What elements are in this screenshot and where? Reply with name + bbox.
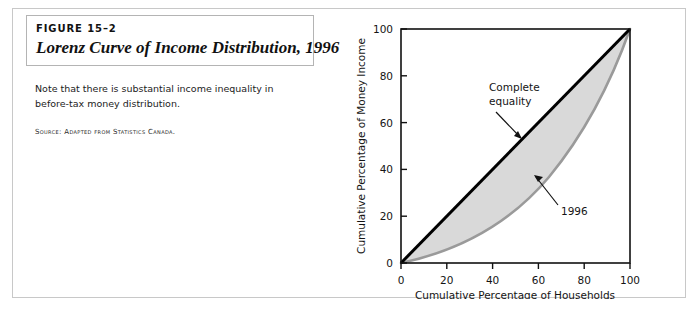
figure-source: Source: Adapted from Statistics Canada. [35, 127, 295, 138]
note-block: Note that there is substantial income in… [26, 81, 295, 138]
figure-number: FIGURE 15–2 [36, 22, 304, 35]
lorenz-curve-chart: 0 20 40 60 80 100 0 20 40 60 80 100 Cumu… [343, 9, 687, 299]
annotation-1996: 1996 [561, 205, 588, 217]
x-tick-label-20: 20 [440, 274, 453, 286]
x-tick-label-0: 0 [398, 274, 405, 286]
figure-frame: FIGURE 15–2 Lorenz Curve of Income Distr… [12, 8, 686, 298]
x-tick-label-60: 60 [532, 274, 545, 286]
figure-note: Note that there is substantial income in… [35, 81, 295, 111]
caption-column: FIGURE 15–2 Lorenz Curve of Income Distr… [26, 15, 316, 285]
y-tick-label-0: 0 [386, 257, 393, 269]
x-tick-label-40: 40 [486, 274, 499, 286]
annotation-complete-equality-line2: equality [489, 95, 531, 107]
y-tick-label-40: 40 [380, 163, 393, 175]
figure-title: Lorenz Curve of Income Distribution, 199… [36, 37, 304, 58]
x-tick-label-80: 80 [578, 274, 591, 286]
annotation-complete-equality: Complete [489, 81, 540, 93]
complete-equality-line [401, 29, 630, 263]
y-axis-ticks [401, 29, 407, 263]
x-axis-ticks [401, 263, 630, 269]
x-axis-title: Cumulative Percentage of Households [415, 289, 615, 299]
x-tick-label-100: 100 [620, 274, 640, 286]
y-tick-label-60: 60 [380, 117, 393, 129]
y-tick-label-80: 80 [380, 70, 393, 82]
y-axis-title: Cumulative Percentage of Money Income [355, 38, 367, 254]
figure-title-box: FIGURE 15–2 Lorenz Curve of Income Distr… [26, 15, 314, 66]
y-tick-label-20: 20 [380, 210, 393, 222]
y-tick-label-100: 100 [373, 23, 393, 35]
chart-svg: 0 20 40 60 80 100 0 20 40 60 80 100 Cumu… [343, 9, 687, 299]
